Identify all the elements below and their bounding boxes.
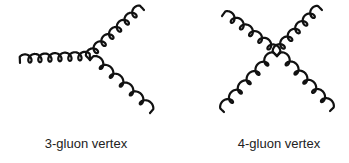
gluon-line-lower-right	[90, 56, 153, 113]
four-gluon-vertex	[220, 6, 334, 112]
gluon-line-lower-left	[220, 52, 277, 112]
four-gluon-vertex-label: 4-gluon vertex	[238, 136, 320, 151]
gluon-line-left	[20, 52, 90, 63]
gluon-line-upper-right	[86, 6, 144, 60]
gluon-line-lower-right	[277, 52, 334, 111]
gluon-line-upper-left	[222, 11, 280, 56]
three-gluon-vertex	[20, 6, 154, 113]
three-gluon-vertex-label: 3-gluon vertex	[45, 136, 127, 151]
